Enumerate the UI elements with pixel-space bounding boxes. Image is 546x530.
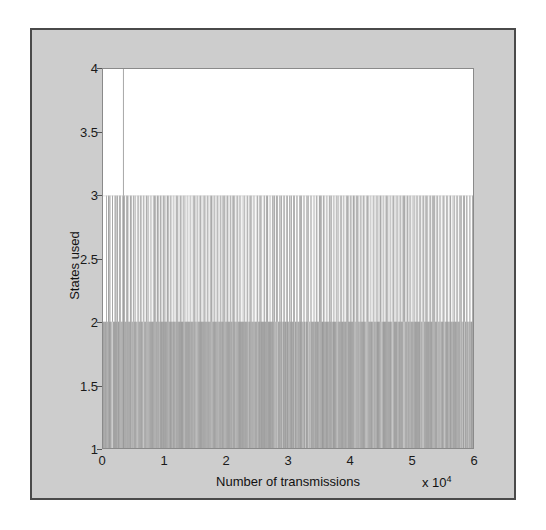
- x-axis-exponent-label: x 104: [422, 474, 452, 490]
- y-tick-label: 3: [91, 188, 98, 203]
- y-tick-label: 1.5: [80, 378, 98, 393]
- x-tick-label: 0: [98, 453, 105, 468]
- y-axis-label: States used: [67, 206, 82, 326]
- x-tick-labels: 0123456: [102, 453, 474, 471]
- chart-plot-canvas: [103, 69, 473, 448]
- figure-page: 11.522.533.54 0123456 States used Number…: [0, 0, 546, 530]
- x-tick-label: 2: [222, 453, 229, 468]
- y-tick-label: 2.5: [80, 251, 98, 266]
- x-tick-label: 6: [470, 453, 477, 468]
- x-axis-exponent-value: 4: [447, 474, 452, 484]
- y-tick-label: 4: [91, 61, 98, 76]
- y-tick-label: 2: [91, 315, 98, 330]
- x-tick-label: 3: [284, 453, 291, 468]
- y-tick-label: 1: [91, 442, 98, 457]
- plot-axes: [102, 68, 474, 449]
- y-tick-label: 3.5: [80, 124, 98, 139]
- x-tick-label: 1: [160, 453, 167, 468]
- x-axis-label: Number of transmissions: [102, 474, 474, 489]
- matlab-figure-frame: 11.522.533.54 0123456 States used Number…: [30, 28, 516, 500]
- x-tick-label: 5: [408, 453, 415, 468]
- x-axis-exponent-prefix: x 10: [422, 475, 447, 490]
- x-tick-label: 4: [346, 453, 353, 468]
